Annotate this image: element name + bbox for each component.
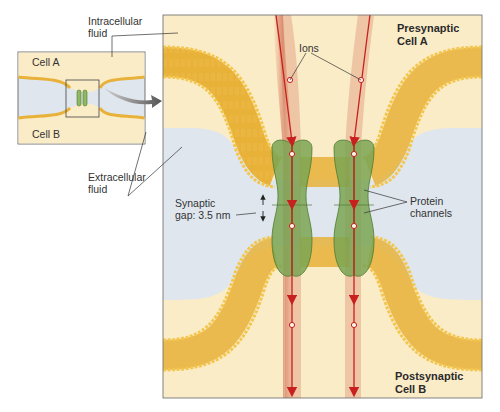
label-synaptic-gap-line2: gap: 3.5 nm bbox=[175, 209, 230, 221]
label-presynaptic-line1: Presynaptic bbox=[397, 22, 459, 35]
label-extracellular-line1: Extracellular bbox=[88, 171, 146, 183]
label-synaptic-gap: Synaptic gap: 3.5 nm bbox=[175, 197, 230, 221]
label-protein-channels: Protein channels bbox=[410, 195, 452, 219]
label-protein-channels-line1: Protein bbox=[410, 195, 452, 207]
label-ions: Ions bbox=[299, 42, 319, 54]
label-protein-channels-line2: channels bbox=[410, 207, 452, 219]
label-postsynaptic-line1: Postsynaptic bbox=[395, 370, 463, 383]
label-presynaptic: Presynaptic Cell A bbox=[397, 22, 459, 48]
label-extracellular-line2: fluid bbox=[88, 183, 146, 195]
label-presynaptic-line2: Cell A bbox=[397, 35, 459, 48]
label-inset-cell-b: Cell B bbox=[32, 128, 60, 140]
label-postsynaptic-line2: Cell B bbox=[395, 383, 463, 396]
label-intracellular-line1: Intracellular bbox=[88, 15, 142, 27]
label-extracellular-fluid: Extracellular fluid bbox=[88, 171, 146, 195]
label-intracellular-fluid: Intracellular fluid bbox=[88, 15, 142, 39]
label-inset-cell-a: Cell A bbox=[32, 56, 59, 68]
label-intracellular-line2: fluid bbox=[88, 27, 142, 39]
label-postsynaptic: Postsynaptic Cell B bbox=[395, 370, 463, 396]
label-synaptic-gap-line1: Synaptic bbox=[175, 197, 230, 209]
